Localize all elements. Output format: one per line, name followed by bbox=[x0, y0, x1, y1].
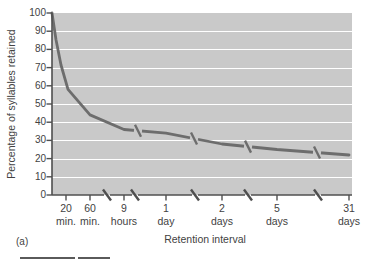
x-tick-label: 1day bbox=[142, 202, 190, 227]
y-tick-label: 100 bbox=[16, 7, 46, 19]
x-tick-label: 5days bbox=[253, 202, 301, 227]
figure-panel-label: (a) bbox=[16, 236, 28, 247]
y-tick-label: 20 bbox=[16, 153, 46, 165]
y-tick-label: 30 bbox=[16, 134, 46, 146]
gridline bbox=[52, 177, 352, 178]
y-tick-label: 40 bbox=[16, 116, 46, 128]
gridline bbox=[52, 122, 352, 123]
cropped-table-border-right bbox=[78, 257, 110, 259]
gridline bbox=[52, 49, 352, 50]
y-tick-label: 0 bbox=[16, 189, 46, 201]
cropped-table-border-left bbox=[20, 257, 75, 259]
x-tick-label: 31days bbox=[325, 202, 373, 227]
gridline bbox=[52, 31, 352, 32]
x-tick-label: 2days bbox=[198, 202, 246, 227]
gridline bbox=[52, 68, 352, 69]
gridline bbox=[52, 140, 352, 141]
y-tick-label: 70 bbox=[16, 62, 46, 74]
x-axis-title: Retention interval bbox=[164, 233, 246, 245]
plot-area bbox=[52, 13, 352, 195]
gridline bbox=[52, 104, 352, 105]
y-tick-label: 10 bbox=[16, 171, 46, 183]
y-tick-label: 80 bbox=[16, 43, 46, 55]
y-tick-label: 50 bbox=[16, 98, 46, 110]
gridline bbox=[52, 159, 352, 160]
gridline bbox=[52, 86, 352, 87]
x-tick-label: 9hours bbox=[100, 202, 148, 227]
forgetting-curve-figure: Percentage of syllables retained 1009080… bbox=[0, 0, 373, 262]
y-tick-label: 90 bbox=[16, 25, 46, 37]
y-tick-label: 60 bbox=[16, 80, 46, 92]
